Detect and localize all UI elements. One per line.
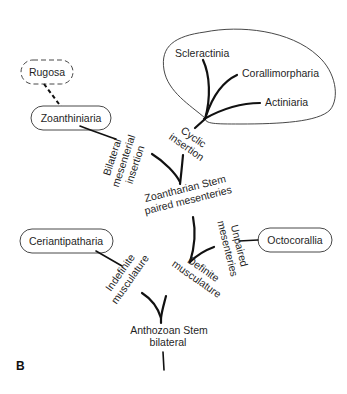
node-corallimorpharia: Corallimorpharia [242, 67, 319, 79]
label-bilateral-mesenterial-insertion: Bilateral mesenterial insertion [98, 129, 149, 192]
node-rugosa: Rugosa [29, 66, 65, 78]
panel-label: B [16, 359, 25, 373]
label-indefinite-musculature: Indefinite musculature [98, 245, 151, 306]
branch-root [163, 352, 164, 370]
branch-bilateral [152, 154, 180, 182]
label-cyclic-insertion: Cyclic insertion [167, 121, 213, 164]
node-actiniaria: Actiniaria [265, 96, 308, 108]
branch-actiniaria [204, 103, 260, 119]
phylogeny-diagram: Rugosa Zoanthiniaria Bilateral mesenteri… [0, 0, 347, 394]
branch-definite [161, 296, 166, 318]
label-anthozoan-bilateral: bilateral [150, 336, 187, 348]
label-anthozoan-stem: Anthozoan Stem [130, 324, 208, 336]
label-zoantharian-stem: Zoantharian Stem paired mesenteries [140, 171, 232, 216]
label-unpaired-mesenteries: Unpaired mesenteries [215, 216, 252, 277]
node-octocorallia: Octocorallia [267, 234, 323, 246]
label-definite-musculature: Definite musculature [170, 247, 231, 300]
node-scleractinia: Scleractinia [175, 47, 229, 59]
branch-indefinite [142, 293, 161, 318]
branch-cyclic-stem [195, 119, 205, 128]
node-zoanthiniaria: Zoanthiniaria [41, 112, 102, 124]
branch-cyclic [180, 155, 183, 184]
node-ceriantipatharia: Ceriantipatharia [29, 235, 103, 247]
rugosa-link [44, 84, 62, 108]
